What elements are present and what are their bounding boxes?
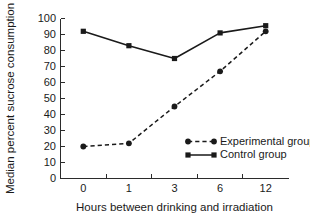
y-tick-label: 60	[44, 76, 56, 88]
y-axis-title: Median percent sucrose consumption	[4, 3, 16, 194]
y-tick-label: 10	[44, 156, 56, 168]
legend-item: Experimental group	[185, 135, 310, 147]
x-tick-label: 12	[260, 182, 272, 194]
data-point-marker	[126, 140, 132, 146]
data-point-marker	[217, 68, 223, 74]
y-tick-label: 20	[44, 140, 56, 152]
data-point-marker	[172, 56, 177, 61]
data-point-marker	[172, 104, 178, 110]
data-point-marker	[81, 29, 86, 34]
y-tick-label: 50	[44, 92, 56, 104]
x-tick-label: 6	[217, 182, 223, 194]
x-tick-label: 3	[171, 182, 177, 194]
x-tick-label: 0	[80, 182, 86, 194]
x-tick-label: 1	[126, 182, 132, 194]
y-tick-label: 30	[44, 124, 56, 136]
series-line-control-group	[83, 26, 265, 59]
y-tick-label: 70	[44, 60, 56, 72]
series-line-experimental-group	[83, 31, 265, 146]
y-tick-label: 40	[44, 108, 56, 120]
y-tick-label: 80	[44, 44, 56, 56]
data-point-marker	[263, 23, 268, 28]
legend-item: Control group	[185, 148, 286, 160]
y-tick-label: 100	[38, 12, 56, 24]
data-point-marker	[263, 28, 269, 34]
legend-marker	[185, 139, 191, 145]
data-point-marker	[218, 30, 223, 35]
data-point-marker	[126, 43, 131, 48]
y-tick-label: 90	[44, 28, 56, 40]
y-tick-label: 0	[50, 172, 56, 184]
chart-figure: 0102030405060708090100013612Hours betwee…	[0, 0, 310, 223]
legend-marker	[185, 152, 190, 157]
x-axis-title: Hours between drinking and irradiation	[76, 201, 273, 213]
legend-marker	[211, 139, 217, 145]
legend-marker	[211, 152, 216, 157]
data-point-marker	[80, 144, 86, 150]
legend-label: Experimental group	[220, 135, 310, 147]
legend-label: Control group	[220, 148, 287, 160]
line-chart: 0102030405060708090100013612Hours betwee…	[0, 0, 310, 223]
